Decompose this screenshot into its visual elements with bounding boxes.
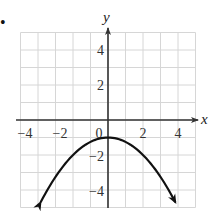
parabola-graph: • x y −4 −2 0 2 4 4 2 −2 −4 (0, 0, 219, 212)
x-tick-label: −4 (18, 126, 33, 141)
y-tick-label: 2 (97, 78, 104, 93)
x-tick-label: 2 (140, 126, 147, 141)
y-tick-label: −4 (89, 184, 104, 199)
x-tick-label: 4 (175, 126, 182, 141)
y-tick-label: −2 (89, 149, 104, 164)
y-tick-label: 4 (97, 43, 104, 58)
x-tick-label: −2 (53, 126, 68, 141)
y-axis-label: y (101, 9, 110, 25)
x-axis-label: x (200, 111, 208, 127)
item-bullet: • (0, 14, 6, 31)
